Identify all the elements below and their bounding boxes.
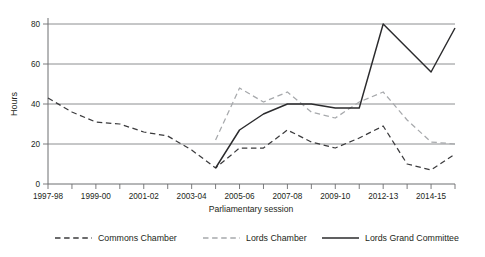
legend-label-commons-chamber: Commons Chamber — [98, 233, 177, 243]
y-axis: 80 60 40 20 0 Hours — [9, 18, 48, 189]
x-tick-label-6: 2003-04 — [177, 192, 207, 201]
x-tick-label-14: 2012-13 — [368, 192, 398, 201]
x-tick-label-16: 2014-15 — [416, 192, 446, 201]
x-tick-label-4: 2001-02 — [129, 192, 159, 201]
y-tick-label-0: 0 — [35, 180, 40, 189]
x-tick-marks — [48, 184, 455, 189]
legend: Commons Chamber Lords Chamber Lords Gran… — [55, 233, 459, 243]
y-axis-title: Hours — [9, 92, 19, 117]
y-tick-label-80: 80 — [31, 20, 41, 29]
legend-label-lords-grand-committee: Lords Grand Committee — [365, 233, 459, 243]
x-tick-label-10: 2007-08 — [272, 192, 302, 201]
series-line-commons-chamber — [48, 98, 455, 170]
x-tick-label-12: 2009-10 — [320, 192, 350, 201]
x-axis: 1997-981999-002001-022003-042005-062007-… — [33, 184, 455, 214]
x-tick-labels: 1997-981999-002001-022003-042005-062007-… — [33, 192, 447, 201]
x-tick-label-8: 2005-06 — [224, 192, 254, 201]
x-axis-title: Parliamentary session — [209, 204, 294, 214]
y-tick-label-20: 20 — [31, 140, 41, 149]
y-tick-label-40: 40 — [31, 100, 41, 109]
series-line-lords-grand-committee — [216, 24, 455, 168]
legend-label-lords-chamber: Lords Chamber — [246, 233, 307, 243]
series-layer — [48, 24, 455, 170]
gridlines — [48, 24, 455, 144]
y-tick-label-60: 60 — [31, 60, 41, 69]
series-line-lords-chamber — [216, 88, 455, 144]
x-tick-label-0: 1997-98 — [33, 192, 63, 201]
line-chart: 80 60 40 20 0 Hours 1997-981999-002001-0… — [0, 0, 485, 257]
x-tick-label-2: 1999-00 — [81, 192, 111, 201]
chart-svg: 80 60 40 20 0 Hours 1997-981999-002001-0… — [0, 0, 485, 257]
